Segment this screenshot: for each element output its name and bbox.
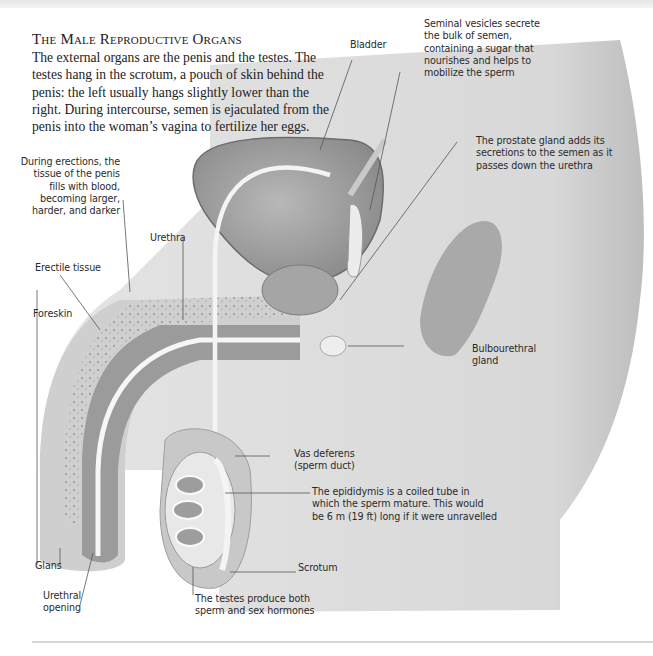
- label-bulbourethral-gland: Bulbourethral gland: [472, 343, 542, 368]
- label-testes: The testes produce both sperm and sex ho…: [195, 593, 315, 618]
- seminal-vesicle-shape: [347, 204, 362, 277]
- label-seminal-vesicles: Seminal vesicles secrete the bulk of sem…: [424, 18, 554, 79]
- bulbourethral-gland-shape: [320, 336, 346, 356]
- label-glans: Glans: [35, 560, 62, 572]
- page-title: The Male Reproductive Organs: [32, 31, 242, 48]
- label-bladder: Bladder: [350, 39, 386, 51]
- intro-paragraph: The external organs are the penis and th…: [32, 49, 332, 135]
- label-scrotum: Scrotum: [298, 562, 337, 574]
- label-erectile-tissue: Erectile tissue: [35, 262, 101, 274]
- prostate-shape: [262, 265, 338, 315]
- label-urethral-opening: Urethral opening: [43, 590, 83, 615]
- label-epididymis: The epididymis is a coiled tube in which…: [312, 486, 497, 523]
- label-vas-deferens: Vas deferens (sperm duct): [294, 448, 364, 473]
- label-erections: During erections, the tissue of the peni…: [20, 156, 120, 217]
- label-urethra: Urethra: [150, 232, 186, 244]
- label-foreskin: Foreskin: [33, 308, 72, 320]
- label-prostate: The prostate gland adds its secretions t…: [476, 135, 636, 172]
- bottom-divider: [32, 641, 653, 643]
